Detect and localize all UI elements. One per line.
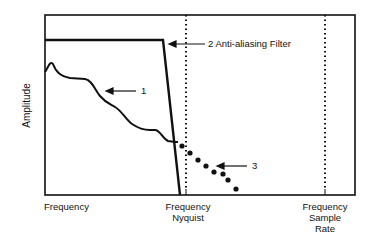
annotation-1: 1 (141, 85, 146, 96)
aliased-components-dots (179, 143, 238, 191)
arrow-1-head (106, 88, 113, 94)
x-label-nyquist-line1: Frequency (160, 201, 216, 212)
plot-frame (45, 15, 355, 195)
anti-aliasing-filter-curve (45, 40, 180, 195)
annotation-3: 3 (252, 160, 257, 171)
arrow-2-head (169, 41, 176, 47)
x-label-sample-rate-line2: Sample (297, 212, 353, 223)
y-axis-label: Amplitude (21, 76, 32, 136)
x-label-nyquist-line2: Nyquist (160, 212, 216, 223)
x-label-sample-rate-line1: Frequency (297, 201, 353, 212)
annotation-2: 2 Anti-aliasing Filter (208, 38, 291, 49)
x-label-sample-rate-line3: Rate (297, 223, 353, 234)
arrow-3-head (217, 163, 224, 169)
x-label-frequency: Frequency (44, 201, 89, 212)
signal-spectrum-curve (45, 63, 178, 142)
